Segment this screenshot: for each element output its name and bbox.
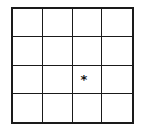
grid-cell-r3-c1 [13,66,43,94]
grid-cell-r4-c4 [102,94,132,122]
grid-cell-r3-c4 [102,66,132,94]
grid-cell-r2-c3 [73,37,103,65]
grid-cell-r4-c3 [73,94,103,122]
grid-cell-r3-c3: * [73,66,103,94]
asterisk-icon: * [80,73,87,86]
grid-cell-r1-c4 [102,9,132,37]
grid-cell-r4-c2 [43,94,73,122]
grid-cell-r1-c2 [43,9,73,37]
grid-diagram: * [11,7,134,124]
grid-cell-r2-c1 [13,37,43,65]
grid-cell-r1-c1 [13,9,43,37]
grid-cell-r3-c2 [43,66,73,94]
grid-cell-r2-c4 [102,37,132,65]
grid-cell-r4-c1 [13,94,43,122]
grid-cell-r1-c3 [73,9,103,37]
grid-cell-r2-c2 [43,37,73,65]
